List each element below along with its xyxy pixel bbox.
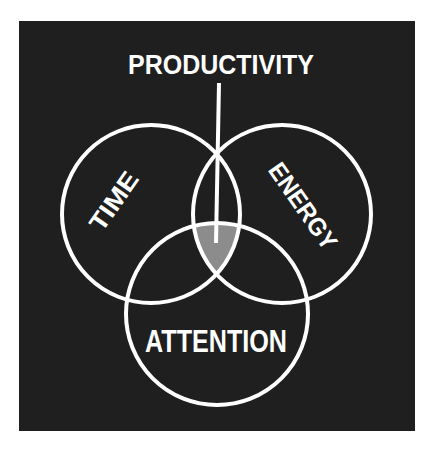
venn-diagram-figure: PRODUCTIVITY TIME ENERGY ATTENTION <box>0 0 434 451</box>
diagram-title: PRODUCTIVITY <box>128 50 314 80</box>
label-time: TIME <box>83 166 144 236</box>
pointer-line <box>216 83 219 243</box>
label-energy: ENERGY <box>263 157 343 255</box>
label-attention: ATTENTION <box>145 324 287 359</box>
venn-diagram: PRODUCTIVITY TIME ENERGY ATTENTION <box>0 0 434 451</box>
